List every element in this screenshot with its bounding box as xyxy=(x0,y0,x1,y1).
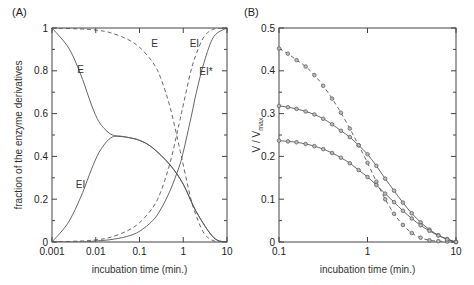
data-point-marker xyxy=(445,238,449,242)
plot-frame xyxy=(52,28,227,242)
y-tick-label: 0.5 xyxy=(261,23,275,34)
data-point-marker xyxy=(357,143,361,147)
data-point-marker xyxy=(410,217,414,221)
y-tick-label: 0.3 xyxy=(261,108,275,119)
data-point-marker xyxy=(375,183,379,187)
data-point-marker xyxy=(401,209,405,213)
data-point-marker xyxy=(286,140,290,144)
x-tick-label: 0.01 xyxy=(86,246,106,257)
data-point-marker xyxy=(330,151,334,155)
data-point-marker xyxy=(383,177,387,181)
data-point-marker xyxy=(357,168,361,172)
x-tick-label: 0.1 xyxy=(133,246,147,257)
y-tick-label: 0.1 xyxy=(261,194,275,205)
data-point-marker xyxy=(313,144,317,148)
data-point-marker xyxy=(428,229,432,233)
curve-label: EI xyxy=(190,38,199,49)
x-axis-label: incubation time (min.) xyxy=(92,264,188,275)
data-point-marker xyxy=(313,113,317,117)
x-axis-label: incubation time (min.) xyxy=(320,264,416,275)
data-point-marker xyxy=(277,47,281,51)
panel-label: (B) xyxy=(244,6,259,18)
y-tick-label: 0 xyxy=(42,237,48,248)
series-line xyxy=(52,28,227,242)
y-tick-label: 0.8 xyxy=(34,65,48,76)
x-tick-label: 1 xyxy=(180,246,186,257)
data-point-marker xyxy=(295,107,299,111)
y-tick-label: 1 xyxy=(42,23,48,34)
series-line xyxy=(52,28,227,242)
series-line xyxy=(52,28,227,242)
data-point-marker xyxy=(437,239,441,243)
panel-label: (A) xyxy=(12,6,27,18)
data-point-marker xyxy=(330,123,334,127)
data-point-marker xyxy=(383,192,387,196)
x-tick-label: 10 xyxy=(450,246,462,257)
data-point-marker xyxy=(366,152,370,156)
data-point-marker xyxy=(339,156,343,160)
curve-label: E xyxy=(77,64,84,75)
data-point-marker xyxy=(304,65,308,69)
x-tick-label: 0.001 xyxy=(39,246,64,257)
plot-frame xyxy=(279,28,456,242)
data-point-marker xyxy=(392,200,396,204)
data-point-marker xyxy=(321,84,325,88)
data-point-marker xyxy=(348,127,352,131)
data-point-marker xyxy=(428,238,432,242)
data-point-marker xyxy=(419,224,423,228)
data-point-marker xyxy=(401,223,405,227)
data-point-marker xyxy=(375,164,379,168)
y-axis-label: V / Vmax xyxy=(251,117,264,152)
data-point-marker xyxy=(383,197,387,201)
series-line xyxy=(52,28,227,242)
data-point-marker xyxy=(286,52,290,56)
x-tick-label: 10 xyxy=(221,246,233,257)
data-point-marker xyxy=(348,161,352,165)
data-point-marker xyxy=(313,73,317,77)
data-point-marker xyxy=(339,129,343,133)
data-point-marker xyxy=(339,111,343,115)
data-point-marker xyxy=(277,139,281,143)
y-tick-label: 0 xyxy=(269,237,275,248)
data-point-marker xyxy=(419,236,423,240)
data-point-marker xyxy=(454,240,458,244)
data-point-marker xyxy=(277,104,281,108)
panel-a-chart: (A)0.0010.010.111000.20.40.60.81incubati… xyxy=(12,6,233,275)
data-point-marker xyxy=(392,212,396,216)
data-point-marker xyxy=(410,212,414,216)
data-point-marker xyxy=(366,161,370,165)
data-point-marker xyxy=(295,58,299,62)
data-point-marker xyxy=(304,110,308,114)
figure: (A)0.0010.010.111000.20.40.60.81incubati… xyxy=(0,0,474,285)
y-tick-label: 0.4 xyxy=(34,151,48,162)
y-tick-label: 0.4 xyxy=(261,65,275,76)
data-point-marker xyxy=(295,140,299,144)
data-point-marker xyxy=(286,105,290,109)
data-point-marker xyxy=(304,142,308,146)
x-tick-label: 0.1 xyxy=(272,246,286,257)
y-tick-label: 0.2 xyxy=(34,194,48,205)
data-point-marker xyxy=(321,147,325,151)
data-point-marker xyxy=(348,135,352,139)
y-tick-label: 0.2 xyxy=(261,151,275,162)
data-point-marker xyxy=(410,231,414,235)
data-point-marker xyxy=(321,117,325,121)
panel-b-chart: (B)0.111000.10.20.30.40.5incubation time… xyxy=(244,6,462,275)
series-line xyxy=(279,106,456,242)
curve-label: EI xyxy=(76,179,85,190)
curve-label: E xyxy=(151,38,158,49)
data-point-marker xyxy=(437,234,441,238)
data-point-marker xyxy=(366,175,370,179)
x-tick-label: 1 xyxy=(365,246,371,257)
curve-label: EI* xyxy=(199,66,212,77)
y-axis-label: fraction of the enzyme derivatives xyxy=(13,61,24,210)
data-point-marker xyxy=(330,97,334,101)
y-tick-label: 0.6 xyxy=(34,108,48,119)
data-point-marker xyxy=(392,189,396,193)
data-point-marker xyxy=(401,201,405,205)
data-point-marker xyxy=(375,180,379,184)
